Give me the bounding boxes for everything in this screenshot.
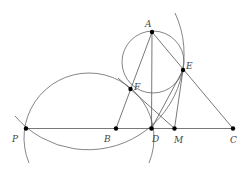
line-AC [152,32,233,129]
point-E: E [181,61,193,72]
svg-text:P: P [11,134,19,144]
svg-text:F: F [133,82,141,92]
svg-text:C: C [230,135,237,145]
line-FM [118,78,175,129]
line-AD [152,32,153,129]
line-AB [116,32,152,129]
point-M: M [172,126,184,145]
geometry-figure: A E F P B D M C [0,0,252,173]
svg-text:A: A [144,19,152,29]
line-DE [152,70,184,129]
point-C: C [230,126,237,145]
point-P: P [11,126,28,144]
svg-text:E: E [185,61,193,71]
small-circle [122,31,184,93]
svg-text:B: B [103,134,111,144]
point-B: B [103,126,118,144]
svg-text:D: D [151,134,159,144]
svg-text:M: M [173,135,184,145]
point-D: D [149,126,159,144]
big-circle-arc [15,13,184,150]
